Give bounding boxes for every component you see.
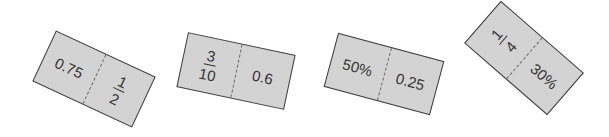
domino-card-4: 1 4 30% [464,1,584,115]
domino-card-1: 0.75 1 2 [32,30,155,127]
decimal-value: 0.25 [394,69,427,93]
decimal-value: 0.75 [52,54,86,82]
fraction-denominator: 10 [198,64,218,84]
domino-card-2: 3 10 0.6 [176,32,295,110]
decimal-value: 0.6 [251,66,275,87]
percent-value: 50% [341,55,374,79]
fraction-value: 1 2 [106,73,132,109]
fraction-value: 1 4 [487,24,521,56]
percent-value: 30% [528,60,562,93]
fraction-value: 3 10 [198,47,221,84]
fraction-denominator: 2 [108,89,123,108]
domino-card-3: 50% 0.25 [324,33,445,116]
card-right-half: 0.6 [230,44,295,108]
fraction-denominator: 4 [501,37,519,54]
